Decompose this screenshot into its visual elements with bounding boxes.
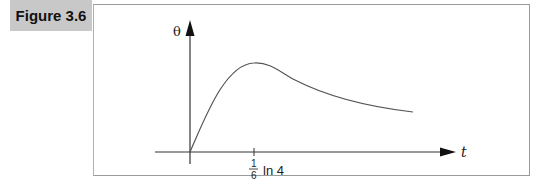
- tick-numerator: 1: [251, 158, 257, 169]
- tick-suffix: ln 4: [263, 163, 284, 178]
- x-axis: t: [155, 144, 467, 160]
- x-axis-label: t: [461, 144, 467, 160]
- y-axis: θ: [173, 20, 195, 164]
- tick-denominator: 6: [251, 170, 257, 181]
- x-tick-max: 1 6 ln 4: [249, 148, 284, 181]
- y-axis-arrow-icon: [186, 20, 195, 36]
- theta-curve: [190, 63, 413, 152]
- chart-plot: t θ 1 6 ln 4: [0, 0, 538, 185]
- y-axis-label: θ: [173, 24, 181, 39]
- x-axis-arrow-icon: [440, 148, 456, 157]
